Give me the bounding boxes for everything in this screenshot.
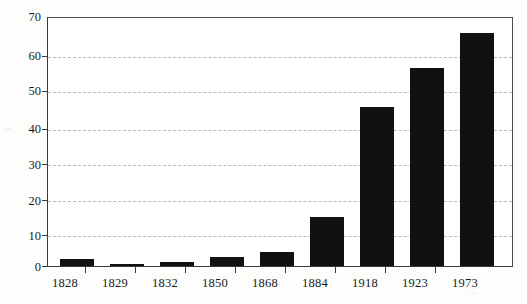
- bar-1884: [310, 217, 344, 266]
- x-tick-mark-2: [135, 267, 136, 273]
- y-tick-label-20: 20: [8, 195, 41, 207]
- y-tick-label-0: 0: [8, 261, 41, 273]
- bar-1918: [360, 107, 394, 266]
- x-tick-mark-7: [385, 267, 386, 273]
- bar-1973: [460, 33, 494, 266]
- bar-1850: [210, 257, 244, 266]
- bar-chart: 70 60 50 40 30 20 10 0: [0, 0, 527, 304]
- bar-1828: [60, 259, 94, 266]
- bar-1923: [410, 68, 444, 266]
- x-tick-mark-1: [85, 267, 86, 273]
- y-tick-label-50: 50: [8, 85, 41, 97]
- x-tick-mark-8: [435, 267, 436, 273]
- x-tick-mark-5: [285, 267, 286, 273]
- y-tick-label-60: 60: [8, 50, 41, 62]
- x-tick-mark-6: [335, 267, 336, 273]
- plot-area: [47, 17, 513, 267]
- x-tick-mark-4: [235, 267, 236, 273]
- y-tick-label-30: 30: [8, 159, 41, 171]
- bar-1829: [110, 264, 144, 266]
- y-tick-label-40: 40: [8, 123, 41, 135]
- bar-1832: [160, 262, 194, 266]
- bar-1868: [260, 252, 294, 266]
- x-tick-mark-3: [185, 267, 186, 273]
- y-tick-label-70: 70: [8, 11, 41, 23]
- x-tick-label-1973: 1973: [435, 276, 495, 290]
- y-tick-label-10: 10: [8, 230, 41, 242]
- bars-layer: [48, 18, 512, 266]
